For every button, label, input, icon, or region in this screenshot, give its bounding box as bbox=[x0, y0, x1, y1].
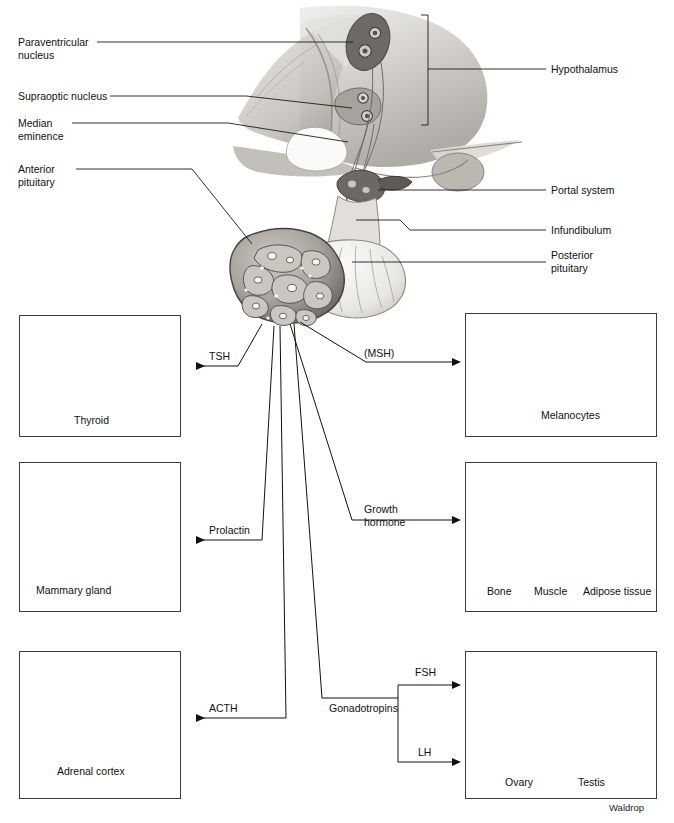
hormone-pathway-lines bbox=[196, 322, 452, 762]
caption-testis: Testis bbox=[578, 776, 605, 788]
portal-system-art bbox=[337, 170, 412, 240]
top-cut-text: -- -- bbox=[78, 0, 198, 4]
inner-label-mammary-gland: Mammary gland bbox=[36, 584, 111, 596]
label-posterior-pituitary: Posterior pituitary bbox=[551, 249, 593, 274]
label-anterior-pituitary: Anterior pituitary bbox=[18, 163, 55, 188]
hormone-label-fsh: FSH bbox=[415, 666, 436, 679]
figure-canvas: -- -- bbox=[0, 0, 674, 823]
paraventricular-nucleus-art bbox=[339, 8, 397, 76]
hormone-label-gonadotropins: Gonadotropins bbox=[329, 702, 398, 715]
hormone-label-tsh: TSH bbox=[209, 350, 230, 363]
label-hypothalamus: Hypothalamus bbox=[551, 63, 618, 76]
label-portal-system: Portal system bbox=[551, 184, 615, 197]
hormone-label-msh: (MSH) bbox=[364, 347, 394, 360]
brain-sagittal-art bbox=[233, 5, 522, 191]
artist-credit: Waldrop bbox=[609, 802, 644, 813]
posterior-pituitary-art bbox=[304, 240, 405, 318]
caption-thyroid: Thyroid bbox=[74, 414, 109, 426]
anatomy-leader-lines bbox=[72, 15, 546, 262]
label-paraventricular-nucleus: Paraventricular nucleus bbox=[18, 36, 89, 61]
caption-ovary: Ovary bbox=[505, 776, 533, 788]
infundibulum-art bbox=[326, 196, 380, 256]
label-median-eminence: Median eminence bbox=[18, 117, 64, 142]
label-infundibulum: Infundibulum bbox=[551, 224, 611, 237]
anterior-pituitary-art bbox=[230, 229, 344, 326]
caption-bone: Bone bbox=[487, 585, 512, 597]
caption-adipose-tissue: Adipose tissue bbox=[583, 585, 651, 597]
hormone-label-growth-hormone: Growth hormone bbox=[364, 503, 405, 528]
hormone-label-acth: ACTH bbox=[209, 702, 238, 715]
inner-label-melanocytes: Melanocytes bbox=[541, 409, 600, 421]
caption-muscle: Muscle bbox=[534, 585, 567, 597]
label-supraoptic-nucleus: Supraoptic nucleus bbox=[18, 90, 107, 103]
hormone-label-lh: LH bbox=[418, 746, 431, 759]
inner-label-adrenal-cortex: Adrenal cortex bbox=[57, 765, 125, 777]
supraoptic-nucleus-art bbox=[335, 88, 381, 125]
hormone-label-prolactin: Prolactin bbox=[209, 524, 250, 537]
box-gonads bbox=[465, 651, 657, 799]
hypophyseal-tract-art bbox=[348, 58, 383, 186]
